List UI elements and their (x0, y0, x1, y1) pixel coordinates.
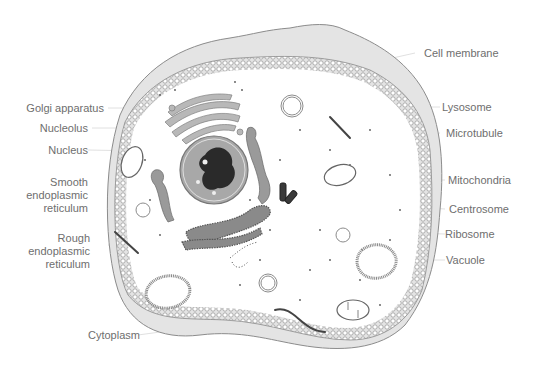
label-smooth-er: Smooth endoplasmic reticulum (26, 176, 88, 215)
label-microtubule: Microtubule (446, 127, 503, 140)
label-rough-er: Rough endoplasmic reticulum (28, 232, 90, 271)
label-centrosome: Centrosome (449, 203, 509, 216)
label-mitochondria: Mitochondria (448, 174, 511, 187)
label-nucleolus: Nucleolus (40, 122, 88, 135)
label-line: endoplasmic (26, 189, 88, 202)
label-line: endoplasmic (28, 245, 90, 258)
label-line: Rough (28, 232, 90, 245)
label-line: reticulum (28, 258, 90, 271)
label-cytoplasm: Cytoplasm (88, 329, 140, 342)
label-lysosome: Lysosome (442, 101, 492, 114)
label-golgi-apparatus: Golgi apparatus (26, 102, 104, 115)
label-vacuole: Vacuole (446, 254, 485, 267)
label-ribosome: Ribosome (445, 228, 495, 241)
nucleolus (203, 160, 208, 165)
label-line: reticulum (26, 202, 88, 215)
label-cell-membrane: Cell membrane (424, 47, 499, 60)
nucleus (180, 136, 248, 204)
label-line: Smooth (26, 176, 88, 189)
label-nucleus: Nucleus (48, 144, 88, 157)
